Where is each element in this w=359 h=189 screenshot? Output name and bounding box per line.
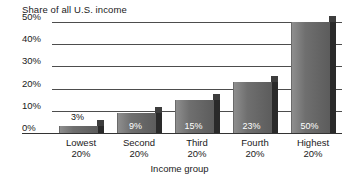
bar-value-label: 50% <box>291 121 329 131</box>
category-label-line2: 20% <box>52 148 110 159</box>
x-axis-category-label: Second20% <box>110 137 168 159</box>
bar-value-label: 23% <box>233 121 271 131</box>
bar-top-face <box>97 120 104 126</box>
y-axis-tick-label: 10% <box>22 101 68 111</box>
x-axis-category-label: Third20% <box>168 137 226 159</box>
bar-top-face <box>155 107 162 113</box>
x-axis-line <box>22 133 342 134</box>
category-label-line1: Lowest <box>52 137 110 148</box>
bar-top-face <box>271 76 278 82</box>
bar: 23% <box>233 76 278 133</box>
y-axis-tick-label: 20% <box>22 79 68 89</box>
bar-side-face <box>329 22 336 133</box>
y-axis-tick-label: 40% <box>22 34 68 44</box>
category-label-line1: Highest <box>284 137 342 148</box>
category-label-line2: 20% <box>110 148 168 159</box>
category-label-line2: 20% <box>284 148 342 159</box>
x-axis-category-label: Lowest20% <box>52 137 110 159</box>
bar-value-label: 3% <box>59 112 97 122</box>
bar: 50% <box>291 16 336 133</box>
category-label-line2: 20% <box>168 148 226 159</box>
x-axis-category-label: Fourth20% <box>226 137 284 159</box>
plot-area: 3%9%15%23%50% <box>52 22 342 133</box>
bar: 3% <box>59 120 104 133</box>
bar-side-face <box>155 113 162 133</box>
category-label-line1: Fourth <box>226 137 284 148</box>
bar: 15% <box>175 94 220 133</box>
bar-value-label: 15% <box>175 121 213 131</box>
y-axis-tick-label: 30% <box>22 56 68 66</box>
bar-front-face <box>291 22 330 133</box>
category-label-line1: Second <box>110 137 168 148</box>
category-label-line1: Third <box>168 137 226 148</box>
bar-top-face <box>329 16 336 22</box>
bar-side-face <box>213 100 220 133</box>
y-axis-tick-label: 50% <box>22 12 68 22</box>
income-share-bar-chart: Share of all U.S. income 3%9%15%23%50% I… <box>0 0 359 189</box>
bar-side-face <box>271 82 278 133</box>
category-label-line2: 20% <box>226 148 284 159</box>
bar-value-label: 9% <box>117 121 155 131</box>
x-axis-category-label: Highest20% <box>284 137 342 159</box>
x-axis-title: Income group <box>0 163 359 174</box>
bar: 9% <box>117 107 162 133</box>
bar-front-face <box>59 126 98 133</box>
bar-side-face <box>97 126 104 133</box>
bar-top-face <box>213 94 220 100</box>
